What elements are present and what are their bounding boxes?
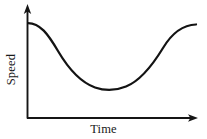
speed-curve (28, 23, 196, 90)
speed-time-figure: Speed Time (0, 0, 207, 139)
plot-area (0, 0, 207, 139)
x-axis-label: Time (0, 122, 207, 137)
y-axis-label: Speed (3, 0, 19, 139)
